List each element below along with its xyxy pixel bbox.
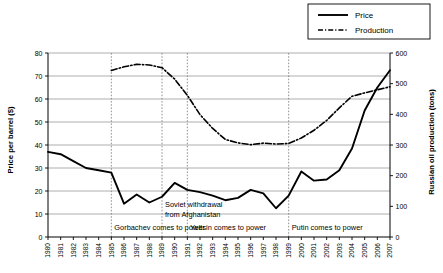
x-tick-label-1991: 1991 xyxy=(184,243,191,258)
x-tick-label-2005: 2005 xyxy=(361,243,368,258)
x-tick-label-1984: 1984 xyxy=(95,243,102,258)
left-tick-label: 0 xyxy=(39,234,43,241)
left-tick-label: 50 xyxy=(35,119,43,126)
left-tick-label: 80 xyxy=(35,50,43,57)
x-tick-label-2001: 2001 xyxy=(310,243,317,258)
left-tick-label: 40 xyxy=(35,142,43,149)
x-tick-label-1998: 1998 xyxy=(272,243,279,258)
x-tick-label-1994: 1994 xyxy=(222,243,229,258)
chart-legend[interactable]: PriceProduction xyxy=(308,4,430,39)
left-tick-label: 10 xyxy=(35,211,43,218)
left-axis-title: Price per barrel ($) xyxy=(6,106,15,174)
x-tick-label-2004: 2004 xyxy=(348,243,355,258)
x-tick-label-1992: 1992 xyxy=(196,243,203,258)
right-axis-title: Russian oil production (tons) xyxy=(427,89,436,195)
right-tick-label: 100 xyxy=(396,203,408,210)
x-tick-label-2006: 2006 xyxy=(374,243,381,258)
left-tick-label: 70 xyxy=(35,73,43,80)
x-tick-label-1997: 1997 xyxy=(260,243,267,258)
x-tick-label-1980: 1980 xyxy=(44,243,51,258)
x-tick-label-1996: 1996 xyxy=(247,243,254,258)
chart-canvas: 01020304050607080 0100200300400500600 19… xyxy=(0,0,443,273)
x-tick-label-1983: 1983 xyxy=(82,243,89,258)
x-tick-label-2003: 2003 xyxy=(336,243,343,258)
legend-label-production[interactable]: Production xyxy=(355,26,393,35)
x-tick-label-1982: 1982 xyxy=(70,243,77,258)
x-tick-label-2000: 2000 xyxy=(298,243,305,258)
x-tick-label-2007: 2007 xyxy=(386,243,393,258)
right-tick-label: 300 xyxy=(396,142,408,149)
left-tick-label: 60 xyxy=(35,96,43,103)
annotation-label: from Afghanistan xyxy=(165,210,220,219)
x-tick-label-1981: 1981 xyxy=(57,243,64,258)
x-tick-label-1989: 1989 xyxy=(158,243,165,258)
x-tick-label-1995: 1995 xyxy=(234,243,241,258)
legend-label-price[interactable]: Price xyxy=(355,11,374,20)
right-tick-label: 200 xyxy=(396,172,408,179)
x-tick-label-1985: 1985 xyxy=(108,243,115,258)
x-tick-label-1988: 1988 xyxy=(146,243,153,258)
left-tick-label: 20 xyxy=(35,188,43,195)
x-tick-label-1990: 1990 xyxy=(171,243,178,258)
annotation-label: Putin comes to power xyxy=(292,223,364,232)
right-tick-label: 0 xyxy=(396,234,400,241)
right-tick-label: 500 xyxy=(396,80,408,87)
right-tick-label: 400 xyxy=(396,111,408,118)
annotation-label: Yeltsin comes to power xyxy=(190,223,266,232)
oil-price-production-chart: 01020304050607080 0100200300400500600 19… xyxy=(0,0,443,273)
left-tick-label: 30 xyxy=(35,165,43,172)
x-tick-label-1986: 1986 xyxy=(120,243,127,258)
x-tick-label-1987: 1987 xyxy=(133,243,140,258)
x-tick-label-1999: 1999 xyxy=(285,243,292,258)
x-tick-label-2002: 2002 xyxy=(323,243,330,258)
x-tick-label-1993: 1993 xyxy=(209,243,216,258)
right-tick-label: 600 xyxy=(396,50,408,57)
annotation-label: Soviet withdrawal xyxy=(165,200,223,209)
